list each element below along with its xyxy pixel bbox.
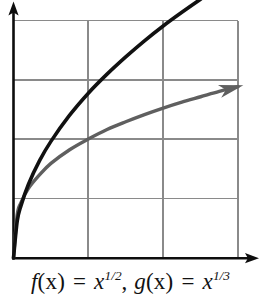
figure-caption: f(x) = x1/2,g(x) = x1/3 [0, 264, 261, 299]
formula-f-argument: (x) [38, 269, 65, 294]
formula-f: f(x) = x1/2 [31, 270, 122, 293]
formula-g: g(x) = x1/3 [134, 270, 230, 293]
formula-f-exponent: 1/2 [105, 268, 122, 283]
formula-g-equals: = [173, 269, 202, 294]
formula-f-name: f [31, 269, 38, 294]
formula-g-exponent: 1/3 [213, 268, 230, 283]
caption-separator: , [122, 269, 135, 295]
function-graph [0, 0, 261, 299]
formula-f-equals: = [65, 269, 94, 294]
formula-f-base: x [94, 269, 104, 294]
plot-background [0, 0, 261, 299]
formula-g-name: g [134, 269, 146, 294]
figure-container: f(x) = x1/2,g(x) = x1/3 [0, 0, 261, 299]
formula-g-base: x [203, 269, 213, 294]
formula-g-argument: (x) [146, 269, 173, 294]
